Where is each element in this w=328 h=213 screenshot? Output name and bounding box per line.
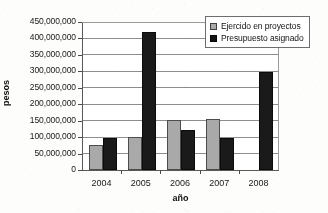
- x-axis-title: año: [82, 193, 279, 203]
- y-axis-tick-label: 0: [71, 165, 76, 174]
- bar-2004-presupuesto: [103, 138, 117, 170]
- y-axis-tick-label: 400,000,000: [30, 33, 76, 42]
- y-axis-tick-mark: [78, 88, 82, 89]
- y-axis-tick-mark: [78, 170, 82, 171]
- y-axis-tick-label: 200,000,000: [30, 99, 76, 108]
- bar-2005-presupuesto: [142, 32, 156, 170]
- chart-figure: 050,000,000100,000,000150,000,000200,000…: [0, 0, 328, 213]
- x-axis-tick-label: 2004: [80, 178, 124, 188]
- x-axis-tick-mark: [121, 170, 122, 174]
- legend-swatch-icon: [210, 23, 217, 30]
- y-axis-tick-mark: [78, 154, 82, 155]
- y-axis-title: pesos: [1, 68, 11, 118]
- legend-label: Ejercido en proyectos: [221, 21, 301, 31]
- x-axis-tick-label: 2008: [236, 178, 280, 188]
- y-axis-tick-label: 350,000,000: [30, 50, 76, 59]
- y-axis-tick-label: 300,000,000: [30, 66, 76, 75]
- y-axis-tick-label: 150,000,000: [30, 116, 76, 125]
- bar-2006-ejercido: [167, 120, 181, 170]
- x-axis-tick-mark: [160, 170, 161, 174]
- gridline: [83, 87, 279, 88]
- y-axis-tick-label: 250,000,000: [30, 83, 76, 92]
- bar-2006-presupuesto: [181, 130, 195, 170]
- y-axis-tick-mark: [78, 104, 82, 105]
- y-axis-tick-label: 100,000,000: [30, 132, 76, 141]
- y-axis-tick-mark: [78, 55, 82, 56]
- gridline: [83, 54, 279, 55]
- y-axis-tick-mark: [78, 137, 82, 138]
- bar-2007-ejercido: [206, 119, 220, 170]
- bar-2007-presupuesto: [220, 138, 234, 170]
- legend-swatch-icon: [210, 35, 217, 42]
- y-axis-tick-label: 450,000,000: [30, 17, 76, 26]
- gridline: [83, 104, 279, 105]
- bar-2005-ejercido: [128, 137, 142, 170]
- x-axis-tick-label: 2006: [158, 178, 202, 188]
- y-axis-tick-mark: [78, 71, 82, 72]
- bar-2004-ejercido: [89, 145, 103, 170]
- gridline: [83, 120, 279, 121]
- x-axis-tick-mark: [239, 170, 240, 174]
- y-axis-tick-label: 50,000,000: [34, 149, 76, 158]
- gridline: [83, 71, 279, 72]
- bar-2008-presupuesto: [259, 72, 273, 170]
- y-axis-tick-mark: [78, 22, 82, 23]
- y-axis-tick-labels: 050,000,000100,000,000150,000,000200,000…: [0, 0, 76, 213]
- x-axis-tick-mark: [200, 170, 201, 174]
- legend-item: Presupuesto asignado: [210, 32, 304, 44]
- x-axis-tick-label: 2007: [197, 178, 241, 188]
- y-axis-tick-mark: [78, 38, 82, 39]
- legend-item: Ejercido en proyectos: [210, 20, 304, 32]
- chart-legend: Ejercido en proyectosPresupuesto asignad…: [205, 16, 310, 48]
- x-axis-tick-label: 2005: [119, 178, 163, 188]
- legend-label: Presupuesto asignado: [221, 33, 304, 43]
- y-axis-tick-mark: [78, 121, 82, 122]
